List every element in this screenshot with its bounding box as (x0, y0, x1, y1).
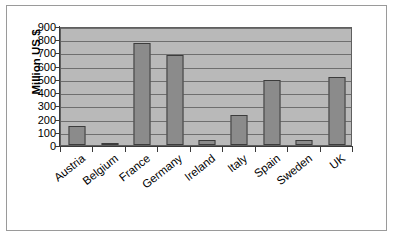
y-tick-label: 800 (22, 35, 56, 45)
y-tick-mark (55, 146, 60, 147)
bars-container (61, 28, 351, 145)
plot-area (60, 27, 352, 146)
y-tick-mark (55, 133, 60, 134)
y-tick-label: 100 (22, 128, 56, 138)
y-tick-label: 700 (22, 48, 56, 58)
y-tick-label: 0 (22, 141, 56, 151)
y-tick-mark (55, 106, 60, 107)
y-tick-mark (55, 93, 60, 94)
x-tick-mark (190, 147, 191, 152)
bar[interactable] (134, 43, 151, 145)
y-tick-label: 500 (22, 75, 56, 85)
bar[interactable] (296, 140, 313, 145)
x-tick-mark (352, 147, 353, 152)
x-tick-mark (287, 147, 288, 152)
bar[interactable] (263, 80, 280, 145)
y-tick-label: 900 (22, 22, 56, 32)
y-tick-mark (55, 80, 60, 81)
x-tick-mark (92, 147, 93, 152)
x-tick-mark (125, 147, 126, 152)
x-axis-line (60, 146, 353, 147)
bar[interactable] (198, 140, 215, 145)
x-tick-mark (255, 147, 256, 152)
bar-slot (256, 28, 288, 145)
y-tick-mark (55, 40, 60, 41)
y-tick-label: 400 (22, 88, 56, 98)
y-tick-label: 300 (22, 101, 56, 111)
bar-slot (126, 28, 158, 145)
bar-slot (321, 28, 352, 145)
bar[interactable] (166, 55, 183, 145)
y-axis-tick-labels: 9008007006005004003002001000 (22, 22, 56, 146)
bar-chart-figure: Million US $ 900800700600500400300200100… (0, 0, 393, 237)
y-tick-mark (55, 53, 60, 54)
bar-slot (61, 28, 93, 145)
bar[interactable] (101, 143, 118, 145)
x-tick-mark (320, 147, 321, 152)
bar-slot (288, 28, 320, 145)
bar[interactable] (231, 115, 248, 145)
bar-slot (223, 28, 255, 145)
bar[interactable] (328, 77, 345, 145)
bar[interactable] (69, 126, 86, 145)
y-tick-mark (55, 27, 60, 28)
bar-slot (93, 28, 125, 145)
x-tick-mark (60, 147, 61, 152)
y-tick-mark (55, 67, 60, 68)
x-tick-mark (222, 147, 223, 152)
bar-slot (158, 28, 190, 145)
y-tick-label: 600 (22, 62, 56, 72)
x-tick-mark (157, 147, 158, 152)
bar-slot (191, 28, 223, 145)
y-tick-mark (55, 120, 60, 121)
y-tick-label: 200 (22, 115, 56, 125)
